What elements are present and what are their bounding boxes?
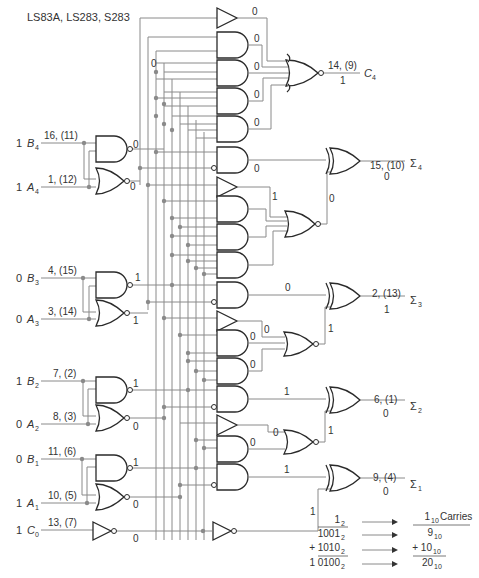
output-sum3: 2, (13) 1 Σ 3 (372, 288, 422, 315)
svg-text:7, (2): 7, (2) (53, 368, 76, 379)
svg-text:1: 1 (384, 304, 390, 315)
nor-gate-s4 (285, 211, 315, 237)
svg-text:0: 0 (264, 324, 270, 335)
nand-gate-bit1 (96, 455, 133, 481)
worked-example: 1 2 1 10 Carries 1001 2 9 10 + 1010 2 + … (309, 511, 472, 570)
svg-text:0: 0 (16, 453, 22, 465)
svg-text:4: 4 (418, 164, 422, 171)
svg-text:4: 4 (35, 144, 39, 151)
output-sum1: 9, (4) 0 Σ 1 (373, 472, 422, 497)
value-nand4: 0 (133, 139, 139, 150)
svg-text:10: 10 (434, 563, 442, 570)
svg-text:10: 10 (433, 548, 441, 555)
svg-text:1: 1 (16, 181, 22, 193)
svg-text:B: B (27, 375, 34, 387)
svg-text:0: 0 (383, 486, 389, 497)
svg-text:+ 10: + 10 (412, 542, 432, 553)
value-nor2: 0 (133, 421, 139, 432)
svg-text:4: 4 (35, 188, 39, 195)
svg-text:1: 1 (328, 425, 334, 436)
bus-wires (117, 18, 217, 540)
carry-c4-logic: 0 0 0 0 0 0 (151, 6, 360, 142)
input-a2: 0 A 2 8, (3) (16, 411, 76, 432)
svg-text:Carries: Carries (440, 511, 472, 522)
svg-text:0: 0 (252, 6, 258, 17)
svg-text:+ 1010: + 1010 (309, 542, 340, 553)
svg-text:1: 1 (272, 191, 278, 202)
svg-text:1001: 1001 (318, 528, 341, 539)
svg-text:0: 0 (254, 33, 260, 44)
svg-text:0: 0 (273, 427, 279, 438)
svg-text:15, (10): 15, (10) (370, 160, 404, 171)
input-wires (41, 141, 96, 530)
input-b1: 0 B 1 11, (6) (16, 446, 76, 467)
svg-text:10: 10 (434, 533, 442, 540)
output-sum2: 6, (1) 0 Σ 2 (374, 394, 422, 419)
value-nand2: 1 (133, 378, 139, 389)
svg-text:0: 0 (35, 531, 39, 538)
input-a4: 1 A 4 1, (12) (16, 174, 77, 195)
svg-text:Σ: Σ (410, 157, 417, 169)
nor-gate-bit3 (96, 300, 130, 326)
svg-text:0: 0 (16, 418, 22, 430)
svg-text:16, (11): 16, (11) (44, 130, 78, 141)
svg-text:3, (14): 3, (14) (48, 306, 77, 317)
svg-text:0: 0 (285, 282, 291, 293)
svg-text:1: 1 (284, 464, 290, 475)
nor-gate-bit2 (96, 405, 130, 431)
svg-text:0: 0 (254, 89, 260, 100)
svg-text:B: B (27, 272, 34, 284)
svg-text:Σ: Σ (410, 294, 417, 306)
svg-text:0: 0 (16, 272, 22, 284)
svg-text:1: 1 (334, 514, 340, 525)
nor-gate-c4 (286, 60, 318, 86)
svg-text:Σ: Σ (410, 400, 417, 412)
input-b2: 1 B 2 7, (2) (16, 368, 76, 389)
xor-gate-s3 (330, 283, 360, 309)
inverter-c0 (93, 522, 117, 540)
value-nand1: 1 (133, 457, 139, 468)
svg-text:2: 2 (35, 382, 39, 389)
svg-text:6, (1): 6, (1) (374, 394, 397, 405)
svg-text:1: 1 (424, 511, 430, 522)
nand-gate-bit2 (96, 377, 133, 403)
svg-text:4: 4 (372, 74, 376, 81)
xor-gate-s4 (330, 148, 360, 174)
nor-gate-bit4 (96, 168, 130, 194)
svg-text:9: 9 (427, 527, 433, 538)
svg-text:1: 1 (16, 137, 22, 149)
svg-text:0: 0 (151, 58, 157, 69)
svg-text:0: 0 (250, 331, 256, 342)
svg-text:2: 2 (341, 534, 345, 541)
svg-text:11, (6): 11, (6) (48, 446, 76, 457)
svg-text:A: A (26, 313, 34, 325)
svg-text:Σ: Σ (410, 478, 417, 490)
svg-text:2: 2 (341, 520, 345, 527)
svg-text:B: B (27, 137, 34, 149)
svg-text:10, (5): 10, (5) (48, 490, 77, 501)
svg-text:1, (12): 1, (12) (48, 174, 77, 185)
svg-text:1: 1 (16, 375, 22, 387)
svg-text:0: 0 (254, 117, 260, 128)
nand-gate-bit3 (96, 272, 133, 298)
svg-text:1 0100: 1 0100 (309, 557, 340, 568)
svg-text:C: C (364, 67, 372, 79)
input-a3: 0 A 3 3, (14) (16, 306, 77, 327)
output-sum4: 15, (10) 0 Σ 4 (370, 157, 422, 182)
value-nor4: 0 (130, 181, 136, 192)
svg-text:A: A (26, 181, 34, 193)
nor-gate-s2 (284, 430, 313, 454)
svg-text:9, (4): 9, (4) (373, 472, 396, 483)
svg-text:1: 1 (35, 504, 39, 511)
value-nor1: 0 (133, 499, 139, 510)
inverter-carry-in (213, 522, 231, 540)
nor-gate-bit1 (96, 484, 130, 510)
svg-text:0: 0 (254, 163, 260, 174)
svg-text:1: 1 (35, 460, 39, 467)
svg-text:B: B (27, 453, 34, 465)
input-a1: 1 A 1 10, (5) (16, 490, 77, 511)
svg-text:2: 2 (341, 548, 345, 555)
value-nor3: 1 (133, 315, 139, 326)
svg-text:10: 10 (431, 517, 439, 524)
nor-gate-s3 (284, 332, 313, 356)
